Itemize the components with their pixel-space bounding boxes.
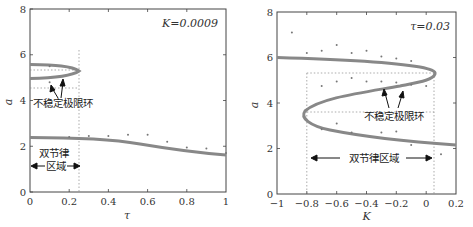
svg-text:8: 8 — [20, 4, 26, 15]
svg-text:0: 0 — [20, 187, 26, 198]
left-simulation-points — [49, 65, 227, 154]
left-y-tick-labels: 0 2 4 6 8 — [20, 4, 26, 198]
left-bistable-label-1: 双节律 — [39, 147, 70, 159]
right-param-annotation: τ=0.03 — [410, 20, 450, 33]
svg-text:−1: −1 — [270, 198, 285, 209]
right-x-axis-label: K — [361, 210, 371, 223]
svg-text:1: 1 — [223, 196, 229, 207]
svg-text:4: 4 — [20, 95, 26, 106]
right-unstable-cycle-label: 不稳定极限环 — [364, 110, 424, 122]
left-unstable-arrows — [50, 79, 65, 98]
right-x-tick-labels: −1 −0.8 −0.6 −0.4 −0.2 0 0.2 — [270, 198, 464, 209]
left-x-tick-labels: 0 0.2 0.4 0.6 0.8 1 — [27, 196, 229, 207]
right-plot: 0 2 4 6 8 −1 −0.8 −0.6 −0.4 −0.2 0 0.2 K… — [248, 7, 464, 224]
left-y-axis-label: a — [2, 99, 15, 106]
right-bistable-label: 双节律区域 — [349, 152, 400, 164]
svg-text:0.2: 0.2 — [61, 196, 77, 207]
svg-text:0.4: 0.4 — [100, 196, 116, 207]
svg-text:0: 0 — [423, 198, 429, 209]
left-plot: 0 2 4 6 8 0 0.2 0.4 0.6 0.8 1 τ a K=0.00… — [2, 4, 229, 223]
svg-text:0.8: 0.8 — [179, 196, 195, 207]
svg-text:−0.2: −0.2 — [384, 198, 408, 209]
svg-text:0.2: 0.2 — [448, 198, 464, 209]
svg-text:6: 6 — [20, 49, 26, 60]
svg-text:2: 2 — [267, 143, 273, 154]
svg-text:6: 6 — [267, 52, 273, 63]
left-bistable-label-2: 区域 — [46, 160, 67, 172]
right-plot-frame — [277, 12, 456, 194]
left-param-annotation: K=0.0009 — [161, 17, 218, 30]
right-x-ticks — [307, 12, 426, 194]
left-upper-branch — [30, 65, 79, 79]
svg-text:−0.6: −0.6 — [325, 198, 349, 209]
svg-text:0.6: 0.6 — [140, 196, 156, 207]
left-unstable-cycle-label: 不稳定极限环 — [33, 97, 93, 109]
right-s-curve — [277, 58, 456, 146]
svg-text:8: 8 — [267, 7, 273, 18]
right-y-axis-label: a — [248, 102, 261, 109]
left-x-axis-label: τ — [124, 209, 131, 222]
right-unstable-arrows — [382, 89, 404, 108]
svg-text:0: 0 — [27, 196, 33, 207]
svg-text:−0.4: −0.4 — [354, 198, 378, 209]
right-y-tick-labels: 0 2 4 6 8 — [267, 7, 273, 200]
svg-text:4: 4 — [267, 98, 273, 109]
svg-text:2: 2 — [20, 141, 26, 152]
figure: 0 2 4 6 8 0 0.2 0.4 0.6 0.8 1 τ a K=0.00… — [0, 0, 473, 227]
svg-text:−0.8: −0.8 — [295, 198, 319, 209]
